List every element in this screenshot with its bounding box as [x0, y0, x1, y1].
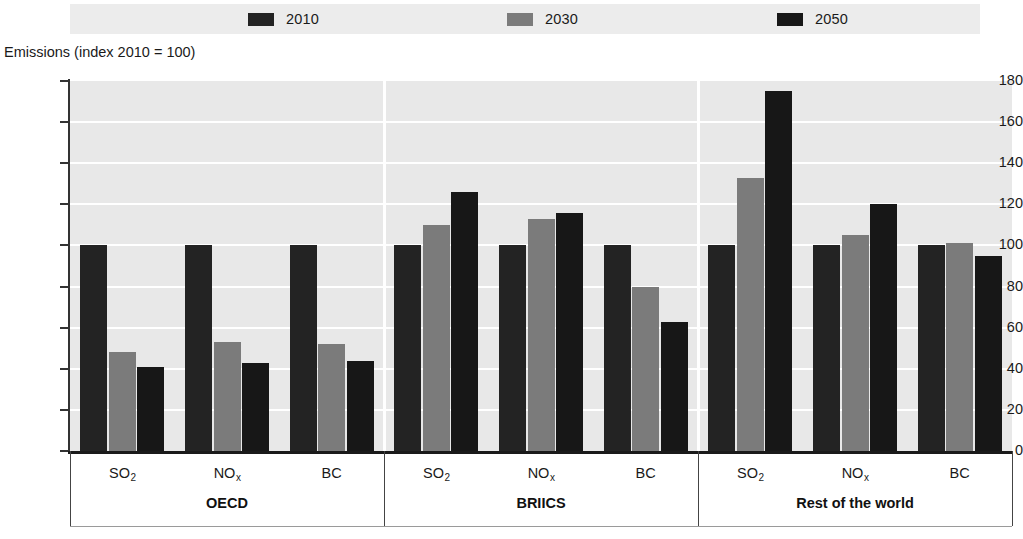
category-label-subscript: x [550, 472, 555, 483]
y-axis-tick [60, 121, 69, 123]
bar-2030-oecd-so2 [109, 352, 136, 451]
group-divider [698, 451, 699, 526]
category-label-subscript: 2 [445, 472, 451, 483]
y-axis-tick-label: 20 [971, 401, 1023, 417]
y-axis-tick [60, 409, 69, 411]
footer-divider [70, 526, 1012, 527]
category-label-rest-of-the-world-1: NOx [842, 465, 869, 481]
group-separator [383, 81, 386, 451]
category-label-rest-of-the-world-0: SO2 [737, 465, 764, 481]
y-axis-tick [60, 162, 69, 164]
gridline [70, 121, 1012, 123]
bar-2010-rest-of-the-world-so2 [708, 245, 735, 451]
category-label-subscript: x [236, 472, 241, 483]
group-divider [384, 451, 385, 526]
bar-2010-briics-bc [604, 245, 631, 451]
bar-2010-rest-of-the-world-nox [813, 245, 840, 451]
category-label-rest-of-the-world-2: BC [950, 465, 970, 481]
y-axis-tick [60, 286, 69, 288]
y-axis-tick-label: 140 [971, 154, 1023, 170]
bar-2010-briics-nox [499, 245, 526, 451]
bar-2010-oecd-so2 [80, 245, 107, 451]
y-axis-tick-label: 60 [971, 319, 1023, 335]
y-axis-tick [60, 80, 69, 82]
group-label-oecd: OECD [206, 495, 248, 511]
category-label-briics-2: BC [636, 465, 656, 481]
category-label-briics-0: SO2 [423, 465, 450, 481]
bar-2010-oecd-nox [185, 245, 212, 451]
bar-2050-briics-nox [556, 213, 583, 451]
y-axis-tick [60, 327, 69, 329]
y-axis-tick [60, 368, 69, 370]
bar-2030-briics-so2 [423, 225, 450, 451]
y-axis-tick-label: 180 [971, 72, 1023, 88]
group-label-rest-of-the-world: Rest of the world [796, 495, 914, 511]
y-axis-tick-label: 80 [971, 278, 1023, 294]
bar-2010-briics-so2 [394, 245, 421, 451]
category-label-subscript: 2 [759, 472, 765, 483]
bar-2030-rest-of-the-world-nox [842, 235, 869, 451]
bar-2050-oecd-so2 [137, 367, 164, 451]
gridline [70, 162, 1012, 164]
bar-2030-rest-of-the-world-bc [946, 243, 973, 451]
group-label-briics: BRIICS [516, 495, 565, 511]
bar-2050-rest-of-the-world-so2 [765, 91, 792, 451]
bar-2010-oecd-bc [290, 245, 317, 451]
bar-2030-rest-of-the-world-so2 [737, 178, 764, 451]
bar-2050-briics-bc [661, 322, 688, 452]
group-separator [697, 81, 700, 451]
bar-2050-rest-of-the-world-nox [870, 204, 897, 451]
y-axis-tick [60, 203, 69, 205]
bar-2030-oecd-nox [214, 342, 241, 451]
y-axis-tick-label: 120 [971, 195, 1023, 211]
bar-2030-oecd-bc [318, 344, 345, 451]
category-label-briics-1: NOx [528, 465, 555, 481]
bar-2050-briics-so2 [451, 192, 478, 451]
category-label-oecd-0: SO2 [109, 465, 136, 481]
category-label-subscript: 2 [131, 472, 137, 483]
chart-plot-wrapper: 180160140120100806040200 SO2NOxBCOECDSO2… [0, 0, 1023, 539]
y-axis-tick-label: 160 [971, 113, 1023, 129]
bar-2010-rest-of-the-world-bc [918, 245, 945, 451]
y-axis-tick [60, 244, 69, 246]
y-axis-line [68, 79, 70, 453]
bar-2030-briics-bc [632, 287, 659, 451]
chart-plot-area [70, 81, 1012, 451]
bar-2050-oecd-bc [347, 361, 374, 451]
y-axis-tick-label: 100 [971, 236, 1023, 252]
bar-2030-briics-nox [528, 219, 555, 451]
group-divider [70, 451, 71, 526]
category-label-subscript: x [864, 472, 869, 483]
category-label-oecd-1: NOx [214, 465, 241, 481]
y-axis-tick-label: 40 [971, 360, 1023, 376]
bar-2050-oecd-nox [242, 363, 269, 451]
group-divider [1012, 451, 1013, 526]
category-label-oecd-2: BC [322, 465, 342, 481]
